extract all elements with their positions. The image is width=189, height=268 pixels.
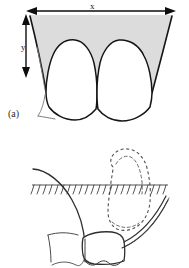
- dashed-nasal-lobe: [112, 222, 139, 227]
- panel-label-a: (a): [8, 108, 19, 119]
- incisal-scallop-left-tail: [52, 260, 84, 266]
- dimension-label-x: x: [90, 1, 95, 11]
- tooth-block-outline: [82, 232, 125, 265]
- arrowhead-x-right: [165, 7, 176, 15]
- lower-lip-line-left-tail: [38, 95, 45, 116]
- dimension-arrow-x: [26, 7, 176, 15]
- arrowhead-x-left: [26, 7, 37, 15]
- hatched-reference-line: [31, 185, 168, 194]
- lower-lip-line-left: [38, 116, 55, 119]
- arrowhead-y-top: [22, 14, 30, 25]
- posterior-contour-third: [126, 198, 169, 246]
- posterior-contour-outer: [124, 196, 166, 242]
- dashed-nasal-outline: [108, 149, 150, 230]
- panel-a-drawing: [0, 0, 189, 134]
- figure-root: x y (a): [0, 0, 189, 268]
- vestibule-left-curve: [48, 235, 51, 262]
- posterior-contour-inner: [122, 200, 168, 248]
- panel-b: (b): [0, 134, 189, 268]
- arrowhead-y-bottom: [22, 67, 30, 78]
- upper-lip-line-left: [48, 233, 78, 235]
- hatch-ticks: [31, 185, 166, 194]
- dimension-label-y: y: [21, 42, 26, 52]
- panel-a: x y (a): [0, 0, 189, 134]
- panel-b-drawing: [0, 134, 189, 268]
